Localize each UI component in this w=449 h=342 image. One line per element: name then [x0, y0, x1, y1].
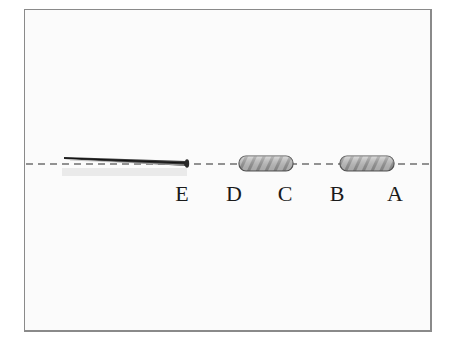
label-b: B: [330, 183, 345, 205]
label-c: C: [278, 183, 293, 205]
diagram-canvas: [0, 0, 449, 342]
magnet-ba-icon: [340, 156, 394, 171]
nail-icon: [64, 157, 189, 168]
nail-shadow: [62, 168, 187, 176]
magnet-dc-icon: [239, 156, 293, 171]
label-a: A: [387, 183, 403, 205]
label-e: E: [175, 183, 188, 205]
label-d: D: [226, 183, 242, 205]
